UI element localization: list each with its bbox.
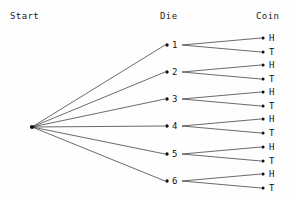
die-outcome-label-3: 3 bbox=[172, 94, 177, 104]
node-coin-6-T bbox=[261, 186, 264, 189]
node-coin-1-T bbox=[261, 50, 264, 53]
coin-outcome-label-coin-1-T: T bbox=[269, 47, 274, 57]
coin-outcome-label-coin-6-H: H bbox=[269, 169, 274, 179]
branch-root-to-die-2 bbox=[32, 72, 165, 127]
die-outcome-label-5: 5 bbox=[172, 149, 177, 159]
node-coin-2-T bbox=[261, 77, 264, 80]
branch-root-to-die-1 bbox=[32, 45, 165, 127]
node-coin-3-H bbox=[261, 90, 264, 93]
tree-graphics bbox=[0, 0, 297, 199]
node-coin-4-T bbox=[261, 131, 264, 134]
coin-outcome-label-coin-3-T: T bbox=[269, 101, 274, 111]
branch-root-to-die-3 bbox=[32, 99, 165, 127]
branch-die-4-to-coin-4-H bbox=[182, 119, 261, 126]
branch-die-1-to-coin-1-H bbox=[182, 38, 261, 45]
die-outcome-label-4: 4 bbox=[172, 121, 177, 131]
branch-root-to-die-5 bbox=[32, 127, 165, 154]
node-die-5 bbox=[165, 152, 168, 155]
node-die-4 bbox=[165, 124, 168, 127]
node-coin-3-T bbox=[261, 104, 264, 107]
node-die-3 bbox=[165, 97, 168, 100]
node-coin-5-H bbox=[261, 145, 264, 148]
node-die-6 bbox=[165, 179, 168, 182]
coin-outcome-label-coin-6-T: T bbox=[269, 183, 274, 193]
branch-root-to-die-6 bbox=[32, 127, 165, 181]
branch-die-6-to-coin-6-T bbox=[182, 181, 261, 188]
coin-outcome-label-coin-4-H: H bbox=[269, 114, 274, 124]
branch-die-3-to-coin-3-H bbox=[182, 92, 261, 99]
column-header-coin: Coin bbox=[256, 11, 279, 21]
coin-outcome-label-coin-3-H: H bbox=[269, 87, 274, 97]
branch-die-2-to-coin-2-H bbox=[182, 65, 261, 72]
branch-die-5-to-coin-5-T bbox=[182, 154, 261, 161]
die-outcome-label-1: 1 bbox=[172, 40, 177, 50]
coin-outcome-label-coin-5-H: H bbox=[269, 142, 274, 152]
node-coin-1-H bbox=[261, 36, 264, 39]
node-coin-6-H bbox=[261, 172, 264, 175]
branch-die-2-to-coin-2-T bbox=[182, 72, 261, 79]
node-die-2 bbox=[165, 70, 168, 73]
die-outcome-label-6: 6 bbox=[172, 176, 177, 186]
coin-outcome-label-coin-5-T: T bbox=[269, 156, 274, 166]
node-coin-4-H bbox=[261, 117, 264, 120]
die-outcome-label-2: 2 bbox=[172, 67, 177, 77]
coin-outcome-label-coin-1-H: H bbox=[269, 33, 274, 43]
node-coin-5-T bbox=[261, 159, 264, 162]
branch-die-6-to-coin-6-H bbox=[182, 174, 261, 181]
coin-outcome-label-coin-4-T: T bbox=[269, 128, 274, 138]
node-root bbox=[30, 125, 34, 129]
node-coin-2-H bbox=[261, 63, 264, 66]
column-header-die: Die bbox=[160, 11, 177, 21]
branch-die-1-to-coin-1-T bbox=[182, 45, 261, 52]
probability-tree-diagram: Start Die Coin 123456 HTHTHTHTHTHT bbox=[0, 0, 297, 199]
column-header-start: Start bbox=[10, 11, 39, 21]
coin-outcome-label-coin-2-H: H bbox=[269, 60, 274, 70]
branch-root-to-die-4 bbox=[32, 126, 165, 127]
branch-die-4-to-coin-4-T bbox=[182, 126, 261, 133]
branch-die-5-to-coin-5-H bbox=[182, 147, 261, 154]
branch-die-3-to-coin-3-T bbox=[182, 99, 261, 106]
node-die-1 bbox=[165, 43, 168, 46]
coin-outcome-label-coin-2-T: T bbox=[269, 74, 274, 84]
